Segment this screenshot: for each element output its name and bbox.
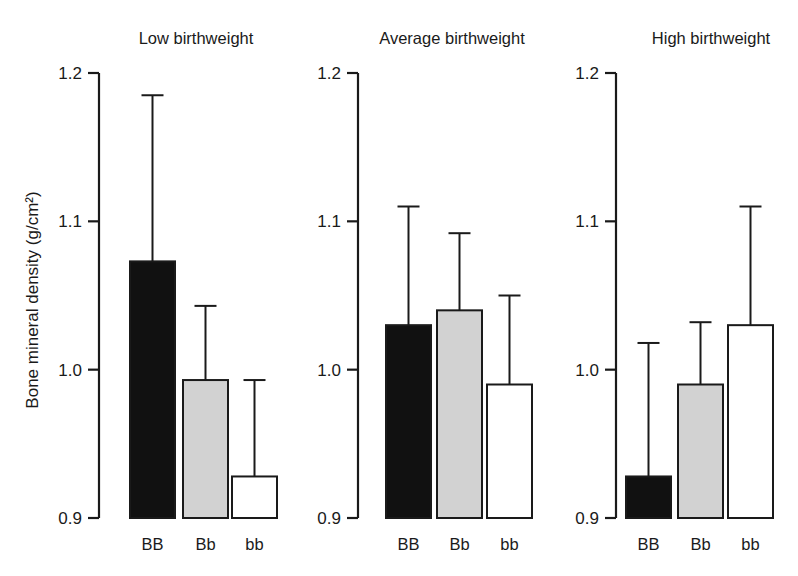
- y-axis-tick-label: 1.0: [317, 361, 341, 380]
- bar: [626, 476, 671, 518]
- bar: [678, 385, 723, 519]
- chart-panel: Average birthweight1.21.11.00.9BBBbbb: [317, 29, 532, 553]
- y-axis-tick-label: 1.2: [317, 64, 341, 83]
- bar: [728, 325, 773, 518]
- bar: [232, 476, 277, 518]
- x-axis-category-label: bb: [245, 535, 263, 553]
- bar: [183, 380, 228, 518]
- chart-panel: High birthweight1.21.11.00.9BBBbbb: [575, 29, 773, 553]
- y-axis-tick-label: 0.9: [58, 509, 82, 528]
- chart-canvas: Bone mineral density (g/cm²) Low birthwe…: [0, 0, 798, 576]
- bar: [386, 325, 431, 518]
- y-axis-tick-label: 1.1: [58, 212, 82, 231]
- chart-panel: Low birthweight1.21.11.00.9BBBbbb: [58, 29, 277, 553]
- y-axis-tick-label: 0.9: [575, 509, 599, 528]
- y-axis-label: Bone mineral density (g/cm²): [23, 191, 42, 408]
- y-axis-tick-label: 0.9: [317, 509, 341, 528]
- panel-title: High birthweight: [652, 29, 771, 47]
- y-axis-tick-label: 1.1: [575, 212, 599, 231]
- y-axis-tick-label: 1.0: [58, 361, 82, 380]
- y-axis-tick-label: 1.2: [58, 64, 82, 83]
- x-axis-category-label: BB: [397, 535, 419, 553]
- bar: [487, 385, 532, 519]
- x-axis-category-label: bb: [500, 535, 518, 553]
- x-axis-category-label: bb: [741, 535, 759, 553]
- x-axis-category-label: Bb: [195, 535, 215, 553]
- x-axis-category-label: BB: [637, 535, 659, 553]
- bar-chart-figure: Bone mineral density (g/cm²) Low birthwe…: [0, 0, 798, 576]
- x-axis-category-label: BB: [141, 535, 163, 553]
- panels-layer: Low birthweight1.21.11.00.9BBBbbbAverage…: [58, 29, 773, 553]
- panel-title: Low birthweight: [139, 29, 254, 47]
- y-axis-tick-label: 1.0: [575, 361, 599, 380]
- x-axis-category-label: Bb: [690, 535, 710, 553]
- y-axis-tick-label: 1.2: [575, 64, 599, 83]
- bar: [130, 261, 175, 518]
- panel-title: Average birthweight: [379, 29, 525, 47]
- y-axis-tick-label: 1.1: [317, 212, 341, 231]
- bar: [437, 310, 482, 518]
- x-axis-category-label: Bb: [449, 535, 469, 553]
- y-axis-label-text: Bone mineral density (g/cm²): [23, 191, 42, 408]
